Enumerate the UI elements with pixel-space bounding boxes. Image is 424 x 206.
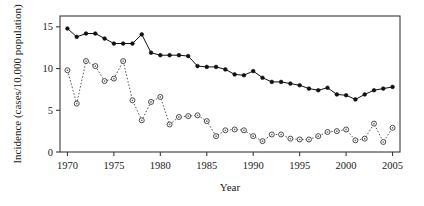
solid-marker-1981 [168,53,172,57]
solid-marker-1976 [121,42,125,46]
solid-marker-1989 [242,73,246,77]
solid-marker-2002 [363,93,367,97]
open-marker-center-1987 [225,129,227,131]
solid-marker-1973 [93,32,97,36]
solid-marker-2000 [344,93,348,97]
open-marker-center-1999 [336,130,338,132]
solid-marker-1994 [289,82,293,86]
open-marker-center-1986 [215,135,217,137]
solid-marker-1978 [140,33,144,37]
open-marker-center-1994 [290,138,292,140]
solid-marker-1979 [149,51,153,55]
open-marker-center-1980 [159,96,161,98]
open-marker-center-1996 [308,139,310,141]
open-marker-center-2004 [382,141,384,143]
open-marker-center-1985 [206,120,208,122]
solid-marker-1986 [214,65,218,69]
y-tick-label-15: 15 [43,21,54,32]
solid-marker-1990 [251,69,255,73]
open-marker-center-1981 [169,124,171,126]
open-marker-center-1983 [187,115,189,117]
y-axis-label: Incidence (cases/10,000 population) [11,4,24,163]
open-marker-center-1975 [113,78,115,80]
solid-marker-2004 [381,87,385,91]
x-tick-label-1985: 1985 [196,160,217,171]
open-marker-center-1993 [280,134,282,136]
open-marker-center-1978 [141,119,143,121]
solid-marker-1988 [233,73,237,77]
x-tick-label-2005: 2005 [382,160,403,171]
open-marker-center-1990 [252,135,254,137]
solid-marker-1987 [224,68,228,72]
open-marker-center-1982 [178,116,180,118]
solid-marker-1992 [270,80,274,84]
solid-marker-1998 [326,86,330,90]
plot-canvas: 19701975198019851990199520002005 051015 … [0,0,424,206]
solid-marker-2005 [391,85,395,89]
open-marker-center-2005 [392,127,394,129]
solid-marker-1997 [316,88,320,92]
x-tick-label-1975: 1975 [103,160,124,171]
open-marker-center-1997 [317,135,319,137]
open-marker-center-1974 [104,80,106,82]
y-tick-label-10: 10 [43,63,54,74]
open-marker-center-1998 [327,131,329,133]
incidence-line-chart: 19701975198019851990199520002005 051015 … [0,0,424,206]
solid-marker-2003 [372,88,376,92]
chart-page: 19701975198019851990199520002005 051015 … [0,0,424,206]
x-tick-label-1995: 1995 [289,160,310,171]
solid-marker-1971 [75,35,79,39]
open-marker-center-1989 [243,129,245,131]
solid-marker-1999 [335,93,339,97]
open-marker-center-1976 [122,60,124,62]
open-marker-center-1971 [76,103,78,105]
y-tick-label-0: 0 [48,147,53,158]
y-tick-label-5: 5 [48,105,53,116]
solid-marker-1993 [279,80,283,84]
open-marker-center-1973 [94,65,96,67]
solid-marker-1996 [307,87,311,91]
solid-marker-1977 [131,42,135,46]
x-tick-label-1980: 1980 [150,160,171,171]
solid-marker-1974 [103,37,107,41]
solid-marker-1984 [196,64,200,68]
open-marker-center-2003 [373,123,375,125]
x-tick-label-1970: 1970 [57,160,78,171]
open-marker-center-2002 [364,138,366,140]
open-marker-center-1992 [271,134,273,136]
x-axis-label: Year [220,181,241,193]
solid-marker-1995 [298,83,302,87]
open-marker-center-2000 [345,129,347,131]
open-marker-center-1984 [197,114,199,116]
open-marker-center-1988 [234,129,236,131]
open-marker-center-1995 [299,139,301,141]
solid-marker-1972 [84,32,88,36]
open-marker-center-1979 [150,101,152,103]
solid-marker-1985 [205,65,209,69]
solid-marker-2001 [354,98,358,102]
open-marker-center-2001 [355,139,357,141]
solid-marker-1983 [186,54,190,58]
x-tick-label-2000: 2000 [336,160,357,171]
open-marker-center-1970 [67,69,69,71]
open-marker-center-1972 [85,60,87,62]
open-marker-center-1991 [262,140,264,142]
solid-marker-1980 [158,53,162,57]
open-marker-center-1977 [132,99,134,101]
x-tick-label-1990: 1990 [243,160,264,171]
solid-marker-1975 [112,42,116,46]
solid-marker-1991 [261,76,265,80]
solid-marker-1970 [66,27,70,31]
chart-background [0,0,424,206]
solid-marker-1982 [177,53,181,57]
